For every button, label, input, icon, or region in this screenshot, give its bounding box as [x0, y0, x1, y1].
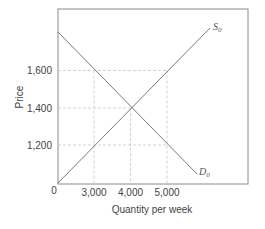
y-axis-title: Price	[14, 85, 25, 108]
x-tick-5000: 5,000	[154, 187, 179, 198]
supply-curve-s0	[58, 28, 210, 183]
y-tick-1400: 1,400	[27, 103, 52, 114]
plot-frame	[58, 9, 248, 184]
supply-demand-chart: S0 D0 1,600 1,400 1,200 0 3,000 4,000 5,…	[0, 0, 265, 229]
supply-label: S0	[213, 21, 222, 34]
x-axis-title: Quantity per week	[112, 204, 194, 215]
y-tick-1200: 1,200	[27, 140, 52, 151]
demand-curve-d0	[58, 32, 197, 174]
x-tick-3000: 3,000	[81, 187, 106, 198]
y-tick-1600: 1,600	[27, 65, 52, 76]
origin-label: 0	[51, 185, 57, 196]
demand-label: D0	[198, 166, 210, 179]
x-tick-4000: 4,000	[118, 187, 143, 198]
